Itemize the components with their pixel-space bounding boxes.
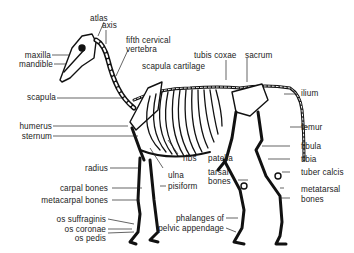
- label-patella: patella: [208, 154, 233, 163]
- label-ilium: ilium: [301, 89, 318, 98]
- label-os-suffraginis: os suffraginis: [40, 215, 106, 224]
- label-radius: radius: [60, 164, 108, 173]
- label-sacrum: sacrum: [245, 51, 272, 60]
- label-os-pedis: os pedis: [40, 234, 106, 243]
- label-scapula-cartilage: scapula cartilage: [142, 62, 205, 71]
- label-femur: femur: [301, 123, 322, 132]
- label-carpal-bones: carpal bones: [40, 184, 108, 193]
- label-vertebra: vertebra: [126, 45, 157, 54]
- label-os-coronae: os coronae: [40, 225, 106, 234]
- label-humerus: humerus: [10, 122, 52, 131]
- label-tibia: tibia: [301, 155, 317, 164]
- label-maxilla: maxilla: [19, 51, 51, 60]
- label-scapula: scapula: [14, 93, 56, 102]
- label-ulna: ulna: [168, 171, 184, 180]
- label-metacarpal-bones: metacarpal bones: [30, 196, 108, 205]
- label-fifth-cervical: fifth cervical: [126, 36, 171, 45]
- label-pelvic-appendage: pelvic appendage: [150, 224, 224, 233]
- label-fibula: fibula: [301, 142, 321, 151]
- label-tarsal: tarsal: [208, 168, 229, 177]
- label-metatarsal: metatarsal: [301, 185, 340, 194]
- label-ribs: ribs: [183, 154, 197, 163]
- label-metatarsal-bones: bones: [301, 195, 324, 204]
- label-phalanges-of: phalanges of: [150, 214, 224, 223]
- label-tubis-coxae: tubis coxae: [194, 51, 237, 60]
- label-tuber-calcis: tuber calcis: [301, 168, 344, 177]
- label-axis: axis: [102, 21, 117, 30]
- label-mandible: mandible: [10, 60, 53, 69]
- label-sternum: sternum: [10, 132, 52, 141]
- label-tarsal-bones: bones: [208, 177, 231, 186]
- label-pisiform: pisiform: [168, 182, 197, 191]
